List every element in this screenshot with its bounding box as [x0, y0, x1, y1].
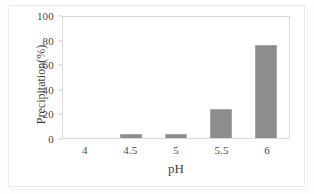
bar-slot [108, 17, 153, 138]
y-tick-label: 80 [43, 35, 54, 47]
x-axis-ticks: 44.555.56 [62, 144, 290, 156]
chart-figure: Precipitation(%) 020406080100 44.555.56 … [0, 0, 314, 194]
y-tick-label: 0 [48, 133, 54, 145]
x-tick-label: 4 [62, 144, 108, 156]
plot-area [62, 16, 290, 139]
y-axis-ticks: 020406080100 [28, 16, 58, 139]
bar-6 [255, 45, 277, 138]
x-tick-label: 5.5 [199, 144, 245, 156]
x-tick-label: 5 [153, 144, 199, 156]
y-tick-label: 100 [37, 10, 54, 22]
bar-slot [199, 17, 244, 138]
y-tick-label: 60 [43, 59, 54, 71]
bar-series [63, 17, 289, 138]
bar-5 [165, 134, 187, 138]
y-tick-label: 40 [43, 84, 54, 96]
x-tick-label: 4.5 [108, 144, 154, 156]
x-axis-title: pH [62, 161, 290, 177]
bar-slot [244, 17, 289, 138]
bar-slot [63, 17, 108, 138]
bar-4-5 [120, 134, 142, 138]
bar-5-5 [210, 109, 232, 138]
bar-slot [153, 17, 198, 138]
y-tick-label: 20 [43, 108, 54, 120]
x-tick-label: 6 [244, 144, 290, 156]
